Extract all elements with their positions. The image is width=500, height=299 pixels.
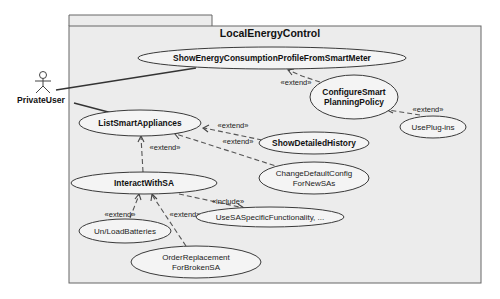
use-case-configure-smart-planning[interactable]: ConfigureSmart PlanningPolicy (310, 75, 398, 119)
include-label: «include» (212, 197, 244, 206)
use-case-use-sa-specific[interactable]: UseSASpecificFunctionality, ... (196, 207, 344, 227)
use-case-label: OrderReplacement (162, 253, 230, 262)
use-case-label: UsePlug-ins (411, 123, 454, 132)
use-case-list-smart-appliances[interactable]: ListSmartAppliances (79, 110, 201, 136)
use-case-label: PlanningPolicy (324, 97, 384, 107)
actor-label: PrivateUser (17, 95, 65, 105)
system-title: LocalEnergyControl (220, 27, 320, 39)
extend-label: «extend» (150, 143, 181, 152)
actor-private-user[interactable]: PrivateUser (17, 72, 65, 106)
use-case-change-default-config[interactable]: ChangeDefaultConfig ForNewSAs (259, 162, 369, 194)
use-case-label: ForBrokenSA (172, 263, 221, 272)
use-case-label: ListSmartAppliances (98, 118, 182, 128)
frame-tab (69, 15, 212, 26)
use-case-show-energy[interactable]: ShowEnergyConsumptionProfileFromSmartMet… (138, 47, 406, 69)
use-case-label: ChangeDefaultConfig (276, 169, 353, 178)
use-case-show-detailed-history[interactable]: ShowDetailedHistory (259, 132, 369, 154)
use-case-label: InteractWithSA (114, 178, 174, 188)
use-case-label: ShowDetailedHistory (272, 138, 356, 148)
extend-label: «extend» (218, 121, 249, 130)
extend-label: «extend» (105, 210, 136, 219)
extend-label: «extend» (413, 105, 444, 114)
use-case-label: ShowEnergyConsumptionProfileFromSmartMet… (173, 53, 372, 63)
use-case-label: Un/LoadBatteries (94, 227, 156, 236)
use-case-interact-with-sa[interactable]: InteractWithSA (71, 172, 217, 194)
use-case-order-replacement[interactable]: OrderReplacement ForBrokenSA (131, 246, 261, 278)
use-case-unload-batteries[interactable]: Un/LoadBatteries (79, 219, 171, 243)
use-case-label: ConfigureSmart (322, 87, 385, 97)
extend-label: «extend» (223, 137, 254, 146)
use-case-use-plugins[interactable]: UsePlug-ins (400, 116, 466, 138)
stick-figure-icon (35, 72, 51, 94)
use-case-label: UseSASpecificFunctionality, ... (216, 213, 324, 222)
extend-label: «extend» (281, 78, 312, 87)
use-case-label: ForNewSAs (293, 179, 336, 188)
use-case-diagram: LocalEnergyControl «extend» «extend» «ex… (0, 0, 500, 299)
